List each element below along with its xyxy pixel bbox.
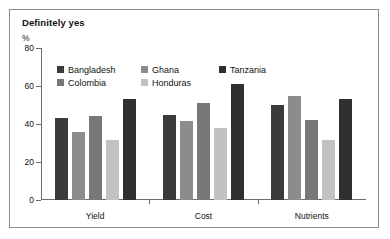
bar-tanzania-cost[interactable] [231, 84, 244, 200]
y-tick-0: 0 [41, 200, 42, 201]
bar-group-yield: Yield [41, 48, 149, 200]
y-tick-label: 0 [29, 195, 34, 205]
x-axis-label-nutrients: Nutrients [295, 211, 329, 221]
x-axis-label-cost: Cost [195, 211, 212, 221]
y-tick-label: 20 [25, 157, 34, 167]
bar-bangladesh-yield[interactable] [55, 118, 68, 200]
chart-figure: Definitely yes % Bangladesh Ghana Tanzan… [9, 9, 379, 228]
bar-tanzania-nutrients[interactable] [339, 99, 352, 200]
bar-colombia-nutrients[interactable] [305, 120, 318, 200]
bar-honduras-yield[interactable] [106, 140, 119, 200]
bar-honduras-nutrients[interactable] [322, 140, 335, 200]
bar-tanzania-yield[interactable] [123, 99, 136, 200]
y-axis-unit-label: % [22, 33, 30, 43]
bar-colombia-yield[interactable] [89, 116, 102, 200]
bar-ghana-cost[interactable] [180, 121, 193, 200]
bar-honduras-cost[interactable] [214, 128, 227, 200]
bar-bangladesh-cost[interactable] [163, 115, 176, 201]
y-tick-label: 40 [25, 119, 34, 129]
y-tick-mark [36, 200, 41, 201]
y-tick-label: 60 [25, 81, 34, 91]
y-tick-label: 80 [25, 43, 34, 53]
bar-ghana-nutrients[interactable] [288, 96, 301, 201]
bar-bangladesh-nutrients[interactable] [271, 105, 284, 200]
x-axis-group-tick [258, 200, 259, 204]
plot-area: 020406080 YieldCostNutrients [41, 48, 366, 200]
bar-ghana-yield[interactable] [72, 132, 85, 200]
x-axis-label-yield: Yield [86, 211, 105, 221]
bar-colombia-cost[interactable] [197, 103, 210, 200]
x-axis-group-tick [149, 200, 150, 204]
bar-group-nutrients: Nutrients [258, 48, 366, 200]
chart-title: Definitely yes [22, 17, 85, 28]
bar-group-cost: Cost [149, 48, 257, 200]
